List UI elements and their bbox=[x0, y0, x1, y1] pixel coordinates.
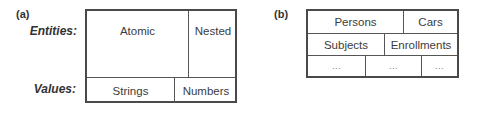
ellipsis-label-2: ... bbox=[389, 61, 398, 71]
value-numbers-cell: Numbers bbox=[175, 78, 237, 103]
entity-atomic-label: Atomic bbox=[120, 25, 155, 37]
type-hierarchy-box: Atomic Nested Strings Numbers bbox=[85, 9, 237, 103]
panel-a-label: (a) bbox=[16, 8, 29, 20]
value-numbers-label: Numbers bbox=[183, 85, 230, 97]
panel-b-label: (b) bbox=[274, 8, 288, 20]
entity-persons-label: Persons bbox=[334, 16, 376, 28]
entity-nested-cell: Nested bbox=[189, 11, 237, 77]
values-row-label: Values: bbox=[6, 82, 76, 96]
entity-enrollments-cell: Enrollments bbox=[385, 34, 457, 55]
entity-atomic-cell: Atomic bbox=[87, 11, 188, 77]
entity-subjects-label: Subjects bbox=[324, 39, 368, 51]
entity-enrollments-label: Enrollments bbox=[391, 39, 452, 51]
ellipsis-cell-3: ... bbox=[422, 56, 457, 76]
value-strings-cell: Strings bbox=[87, 78, 174, 103]
entity-types-box: Persons Cars Subjects Enrollments ... ..… bbox=[306, 9, 459, 78]
entity-nested-label: Nested bbox=[195, 25, 231, 37]
ellipsis-cell-1: ... bbox=[308, 56, 365, 76]
entity-persons-cell: Persons bbox=[308, 11, 403, 33]
ellipsis-cell-2: ... bbox=[366, 56, 421, 76]
entity-cars-label: Cars bbox=[418, 16, 442, 28]
entity-subjects-cell: Subjects bbox=[308, 34, 384, 55]
value-strings-label: Strings bbox=[113, 85, 149, 97]
entity-cars-cell: Cars bbox=[404, 11, 457, 33]
entities-row-label: Entities: bbox=[7, 24, 77, 38]
ellipsis-label-3: ... bbox=[435, 61, 444, 71]
ellipsis-label-1: ... bbox=[332, 61, 341, 71]
